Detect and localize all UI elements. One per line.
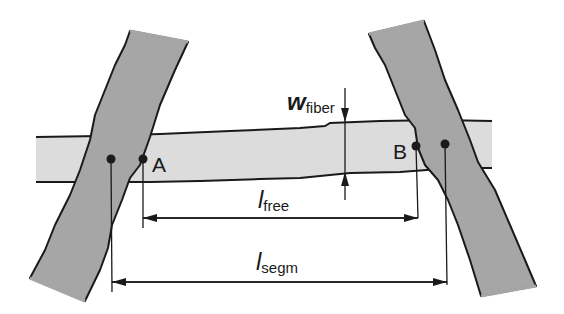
w-fiber-label: wfiber	[287, 88, 335, 116]
point-a-dot	[139, 155, 148, 164]
l-free-label: lfree	[258, 186, 289, 214]
point-b-label: B	[393, 140, 407, 163]
point-b-dot	[412, 142, 421, 151]
l-segm-label: lsegm	[256, 248, 298, 276]
fiber-segment-diagram: A B wfiber lfree lsegm	[0, 0, 564, 314]
point-a-label: A	[152, 153, 166, 176]
bond-center-dot-left	[107, 155, 116, 164]
bond-center-dot-right	[441, 140, 450, 149]
